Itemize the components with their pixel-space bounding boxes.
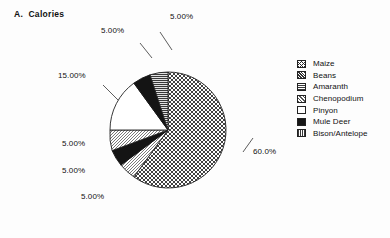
legend-swatch-bison-antelope bbox=[297, 129, 306, 137]
legend-item-bison-antelope[interactable]: Bison/Antelope bbox=[297, 128, 385, 140]
legend-swatch-mule-deer bbox=[297, 118, 306, 126]
legend-item-pinyon[interactable]: Pinyon bbox=[297, 104, 385, 116]
legend-item-amaranth[interactable]: Amaranth bbox=[297, 81, 385, 93]
legend-label-pinyon: Pinyon bbox=[313, 106, 338, 115]
legend: Maize Beans Amaranth Chenopodium Pinyon … bbox=[297, 58, 385, 139]
leader-line-pinyon bbox=[103, 85, 118, 100]
legend-swatch-amaranth bbox=[297, 83, 306, 91]
legend-swatch-maize bbox=[297, 60, 306, 68]
pie-label-bison-antelope: 5.00% bbox=[81, 192, 104, 201]
pie-label-beans: 5.00% bbox=[170, 12, 193, 21]
pie-label-pinyon: 15.00% bbox=[58, 71, 86, 80]
legend-item-mule-deer[interactable]: Mule Deer bbox=[297, 116, 385, 128]
legend-label-maize: Maize bbox=[313, 59, 335, 68]
legend-label-amaranth: Amaranth bbox=[313, 82, 348, 91]
legend-swatch-beans bbox=[297, 71, 306, 79]
legend-label-beans: Beans bbox=[313, 71, 336, 80]
figure-panel: A. Calories bbox=[0, 0, 390, 238]
legend-swatch-pinyon bbox=[297, 106, 306, 114]
legend-item-maize[interactable]: Maize bbox=[297, 58, 385, 70]
leader-line-amaranth bbox=[140, 43, 152, 58]
legend-label-chenopodium: Chenopodium bbox=[313, 94, 363, 103]
pie-label-mule-deer: 5.00% bbox=[62, 166, 85, 175]
leader-line-beans bbox=[160, 32, 172, 50]
legend-swatch-chenopodium bbox=[297, 95, 306, 103]
legend-label-mule-deer: Mule Deer bbox=[313, 117, 350, 126]
pie-label-amaranth: 5.00% bbox=[101, 26, 124, 35]
pie-label-maize: 60.0% bbox=[253, 147, 276, 156]
pie-label-chenopodium: 5.00% bbox=[62, 139, 85, 148]
legend-label-bison-antelope: Bison/Antelope bbox=[313, 129, 368, 138]
legend-item-beans[interactable]: Beans bbox=[297, 70, 385, 82]
leader-line-maize bbox=[243, 138, 253, 152]
legend-item-chenopodium[interactable]: Chenopodium bbox=[297, 93, 385, 105]
